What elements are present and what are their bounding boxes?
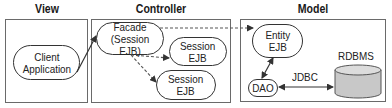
dao-node: DAO: [248, 79, 278, 97]
controller-title: Controller: [130, 2, 192, 16]
rdbms-label: RDBMS: [338, 50, 374, 62]
session-ejb-node-2: Session EJB: [156, 70, 216, 100]
session1-label-line2: EJB: [180, 52, 215, 64]
jdbc-label: JDBC: [292, 71, 318, 83]
entity-label-line1: Entity: [265, 29, 290, 41]
session2-label-line1: Session: [168, 73, 203, 85]
client-label-line1: Client: [22, 51, 70, 63]
facade-session-ejb-node: Facade (Session EJB): [96, 22, 164, 55]
entity-ejb-node: Entity EJB: [252, 24, 303, 58]
entity-label-line2: EJB: [265, 41, 290, 53]
session-ejb-node-1: Session EJB: [169, 37, 227, 66]
session1-label-line1: Session: [180, 40, 215, 52]
database-cylinder-icon: [333, 64, 383, 100]
facade-label-line2: (Session EJB): [100, 33, 159, 57]
view-title: View: [29, 2, 66, 16]
model-title: Model: [293, 2, 333, 16]
session2-label-line2: EJB: [168, 85, 203, 97]
dao-label: DAO: [252, 82, 273, 94]
client-label-line2: Application: [22, 63, 70, 75]
client-application-node: Client Application: [13, 45, 80, 80]
facade-label-line1: Facade: [100, 21, 159, 33]
